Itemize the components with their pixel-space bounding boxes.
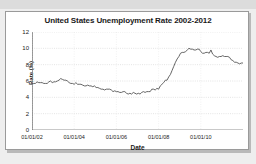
y-tick-label: 6: [26, 78, 29, 84]
x-tick-label: 01/01/08: [148, 134, 169, 140]
y-tick-label: 12: [22, 29, 29, 35]
chart-card: United States Unemployment Rate 2002-201…: [5, 11, 249, 150]
y-tick-label: 2: [26, 111, 29, 117]
y-tick-label: 10: [22, 45, 29, 51]
x-tick-label: 01/01/04: [63, 134, 84, 140]
x-tick-label: 01/01/06: [106, 134, 127, 140]
x-tick-label: 01/01/02: [21, 134, 42, 140]
chart-title: United States Unemployment Rate 2002-201…: [6, 16, 250, 25]
top-gray-band: [0, 0, 256, 9]
x-axis-label: Date: [32, 144, 243, 151]
y-tick-label: 0: [26, 127, 29, 133]
y-tick-label: 8: [26, 62, 29, 68]
line-chart-svg: [32, 32, 243, 130]
x-tick-label: 01/01/10: [190, 134, 211, 140]
data-series-line: [32, 48, 243, 94]
screenshot-root: United States Unemployment Rate 2002-201…: [0, 0, 256, 164]
y-tick-label: 4: [26, 94, 29, 100]
plot-area: Rate (%) 02468101201/01/0201/01/0401/01/…: [32, 32, 243, 130]
